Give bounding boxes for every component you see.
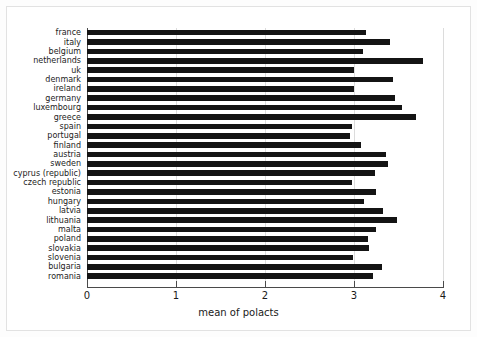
bar-row	[87, 272, 443, 281]
bar-row	[87, 225, 443, 234]
x-axis-line	[87, 287, 444, 288]
y-category-label: romania	[48, 272, 81, 281]
bar-row	[87, 131, 443, 140]
bar	[87, 133, 350, 139]
bar	[87, 273, 373, 279]
x-tick-label-0: 0	[84, 290, 90, 301]
y-category-label: bulgaria	[48, 262, 81, 271]
bar	[87, 77, 393, 83]
bar	[87, 67, 354, 73]
x-tick-1	[176, 281, 177, 287]
y-category-label: sweden	[50, 159, 81, 168]
y-category-label: france	[56, 28, 81, 37]
y-category-label: estonia	[52, 187, 81, 196]
x-tick-label-3: 3	[351, 290, 357, 301]
bar	[87, 86, 354, 92]
y-category-label: portugal	[47, 131, 81, 140]
x-tick-0	[87, 281, 88, 287]
bar	[87, 208, 383, 214]
bar	[87, 95, 395, 101]
bar-row	[87, 206, 443, 215]
y-axis-category-labels: franceitalybelgiumnetherlandsukdenmarkir…	[0, 28, 84, 281]
bar-row	[87, 178, 443, 187]
x-tick-3	[354, 281, 355, 287]
y-category-label: greece	[54, 113, 81, 122]
y-category-label: finland	[54, 141, 81, 150]
y-category-label: poland	[54, 234, 81, 243]
bar	[87, 30, 366, 36]
bar	[87, 58, 423, 64]
x-tick-label-1: 1	[173, 290, 179, 301]
bar-row	[87, 140, 443, 149]
bar-row	[87, 84, 443, 93]
x-tick-label-2: 2	[262, 290, 268, 301]
bar	[87, 142, 361, 148]
bar-row	[87, 253, 443, 262]
y-category-label: italy	[64, 38, 81, 47]
bar-row	[87, 159, 443, 168]
y-category-label: ireland	[53, 84, 81, 93]
y-category-label: spain	[60, 122, 81, 131]
bar	[87, 217, 397, 223]
y-category-label: denmark	[45, 75, 81, 84]
y-category-label: slovenia	[48, 253, 81, 262]
bar-row	[87, 37, 443, 46]
bar	[87, 255, 353, 261]
bar-row	[87, 262, 443, 271]
bar-row	[87, 187, 443, 196]
y-category-label: lithuania	[46, 216, 81, 225]
y-category-label: hungary	[48, 197, 81, 206]
bar-row	[87, 150, 443, 159]
bar-row	[87, 234, 443, 243]
y-category-label: germany	[45, 94, 81, 103]
bar	[87, 161, 388, 167]
bar-row	[87, 56, 443, 65]
gridline-x-4	[443, 28, 444, 281]
bar-row	[87, 215, 443, 224]
bar	[87, 49, 363, 55]
x-axis-label: mean of polacts	[0, 307, 477, 318]
chart-figure: 01234 franceitalybelgiumnetherlandsukden…	[0, 0, 477, 337]
bar-row	[87, 244, 443, 253]
bar	[87, 170, 375, 176]
bar-row	[87, 122, 443, 131]
x-tick-label-4: 4	[440, 290, 446, 301]
bar-row	[87, 197, 443, 206]
y-category-label: netherlands	[33, 56, 81, 65]
bar-row	[87, 103, 443, 112]
y-category-label: belgium	[49, 47, 81, 56]
bar-row	[87, 65, 443, 74]
y-category-label: austria	[53, 150, 81, 159]
y-category-label: czech republic	[23, 178, 81, 187]
bar	[87, 189, 376, 195]
y-category-label: slovakia	[48, 244, 81, 253]
bar-row	[87, 169, 443, 178]
bar-row	[87, 112, 443, 121]
bar	[87, 124, 352, 130]
bar	[87, 105, 402, 111]
bar	[87, 114, 416, 120]
bar	[87, 227, 376, 233]
x-tick-2	[265, 281, 266, 287]
plot-area	[87, 28, 443, 281]
bar	[87, 264, 382, 270]
y-category-label: uk	[71, 66, 81, 75]
y-category-label: luxembourg	[33, 103, 81, 112]
bar	[87, 199, 364, 205]
y-category-label: malta	[58, 225, 81, 234]
x-tick-4	[443, 281, 444, 287]
bar	[87, 152, 386, 158]
bar-row	[87, 94, 443, 103]
bar	[87, 245, 369, 251]
bar-row	[87, 75, 443, 84]
bar	[87, 180, 352, 186]
y-category-label: latvia	[59, 206, 81, 215]
y-category-label: cyprus (republic)	[13, 169, 81, 178]
bar	[87, 39, 390, 45]
bar	[87, 236, 368, 242]
bar-row	[87, 28, 443, 37]
bar-row	[87, 47, 443, 56]
